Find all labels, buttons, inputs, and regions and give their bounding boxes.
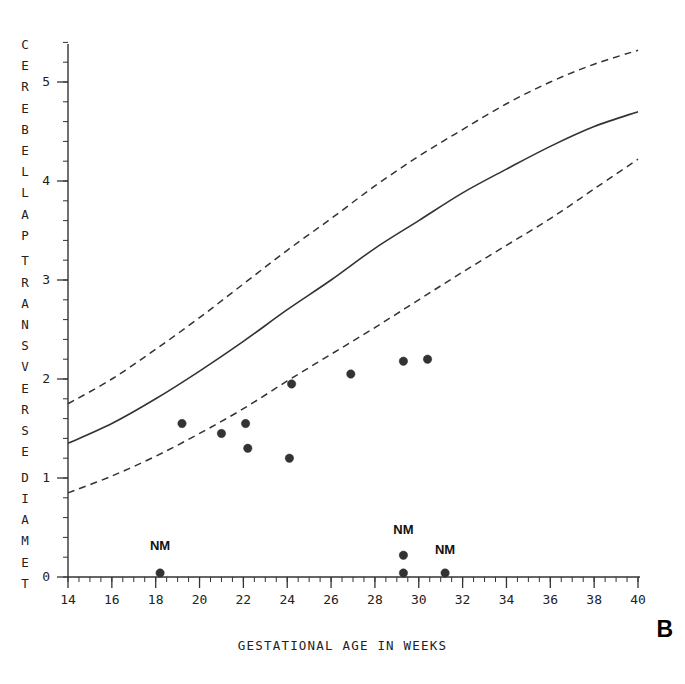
x-tick-label: 30 [404, 592, 434, 607]
axis-lines [68, 44, 640, 577]
data-point [244, 444, 252, 452]
data-point [399, 551, 407, 559]
data-point [285, 454, 293, 462]
nm-annotation: NM [150, 538, 170, 553]
x-tick-label: 14 [53, 592, 83, 607]
data-point [217, 429, 225, 437]
x-tick-label: 34 [491, 592, 521, 607]
chart-figure: CEREBELLAPTRANSVERSEDIAMET 012345 141618… [0, 0, 685, 684]
scatter-points [156, 355, 449, 577]
data-point [399, 569, 407, 577]
data-point [399, 357, 407, 365]
data-point [423, 355, 431, 363]
x-tick-label: 20 [185, 592, 215, 607]
data-point [241, 419, 249, 427]
curve-95th-percentile [68, 50, 638, 403]
curve-5th-percentile [68, 159, 638, 493]
x-tick-label: 16 [97, 592, 127, 607]
panel-letter: B [656, 616, 673, 643]
x-tick-label: 40 [623, 592, 653, 607]
x-tick-label: 28 [360, 592, 390, 607]
x-axis-title: GESTATIONAL AGE IN WEEKS [0, 638, 685, 653]
data-point [347, 370, 355, 378]
x-tick-label: 32 [448, 592, 478, 607]
x-tick-label: 24 [272, 592, 302, 607]
x-tick-label: 26 [316, 592, 346, 607]
x-tick-label: 36 [535, 592, 565, 607]
x-tick-label: 38 [579, 592, 609, 607]
y-axis-minor-ticks [63, 42, 68, 577]
data-point [156, 569, 164, 577]
nm-annotation: NM [393, 522, 413, 537]
percentile-curves [68, 50, 638, 493]
nm-annotation: NM [435, 542, 455, 557]
curve-50th-percentile [68, 112, 638, 444]
x-axis-minor-ticks [68, 577, 638, 582]
y-axis-major-ticks [57, 82, 68, 577]
x-tick-label: 22 [228, 592, 258, 607]
data-point [441, 569, 449, 577]
x-axis-tick-labels: 1416182022242628303234363840 [0, 592, 685, 616]
x-tick-label: 18 [141, 592, 171, 607]
data-point [287, 380, 295, 388]
plot-canvas [0, 0, 685, 684]
data-point [178, 419, 186, 427]
